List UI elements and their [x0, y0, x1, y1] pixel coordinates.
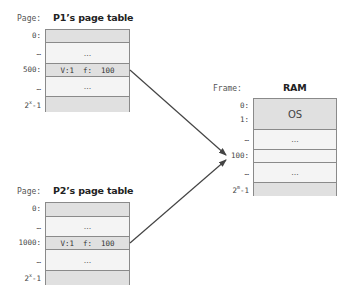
- arrow-p2-to-frame-100: [130, 160, 226, 243]
- mapping-arrows: [0, 0, 354, 302]
- arrow-p1-to-frame-100: [130, 70, 226, 155]
